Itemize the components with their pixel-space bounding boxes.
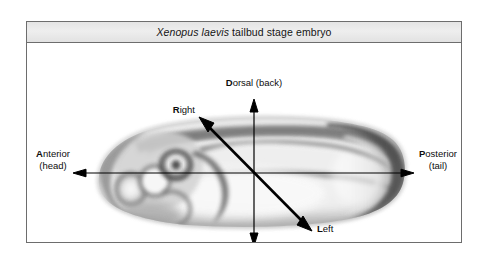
anterior-label-rest: nterior	[43, 148, 70, 159]
figure-canvas: Dorsal (back) Ventral (front) Anterior (…	[27, 43, 461, 242]
posterior-sublabel: (tail)	[410, 160, 461, 172]
dorsal-initial: D	[226, 77, 233, 88]
axis-label-posterior: Posterior (tail)	[410, 148, 461, 171]
axis-label-anterior: Anterior (head)	[27, 148, 81, 171]
anterior-sublabel: (head)	[27, 160, 81, 172]
embryo-diagram	[27, 43, 461, 242]
figure-container: Xenopus laevis tailbud stage embryo	[0, 0, 486, 256]
axis-label-left: Left	[317, 223, 377, 235]
posterior-label-rest: osterior	[425, 148, 457, 159]
axis-label-right: Right	[133, 104, 195, 116]
title-species-name: Xenopus laevis	[156, 26, 229, 38]
axis-label-dorsal: Dorsal (back)	[195, 77, 313, 89]
figure-panel: Xenopus laevis tailbud stage embryo	[26, 21, 462, 243]
left-label-rest: eft	[323, 223, 334, 234]
dorsal-label-rest: orsal (back)	[233, 77, 283, 88]
page-title: Xenopus laevis tailbud stage embryo	[156, 26, 331, 38]
title-remainder: tailbud stage embryo	[229, 26, 332, 38]
right-label-rest: ight	[180, 104, 195, 115]
anterior-initial: A	[36, 148, 43, 159]
figure-title-bar: Xenopus laevis tailbud stage embryo	[27, 22, 461, 43]
right-initial: R	[173, 104, 180, 115]
